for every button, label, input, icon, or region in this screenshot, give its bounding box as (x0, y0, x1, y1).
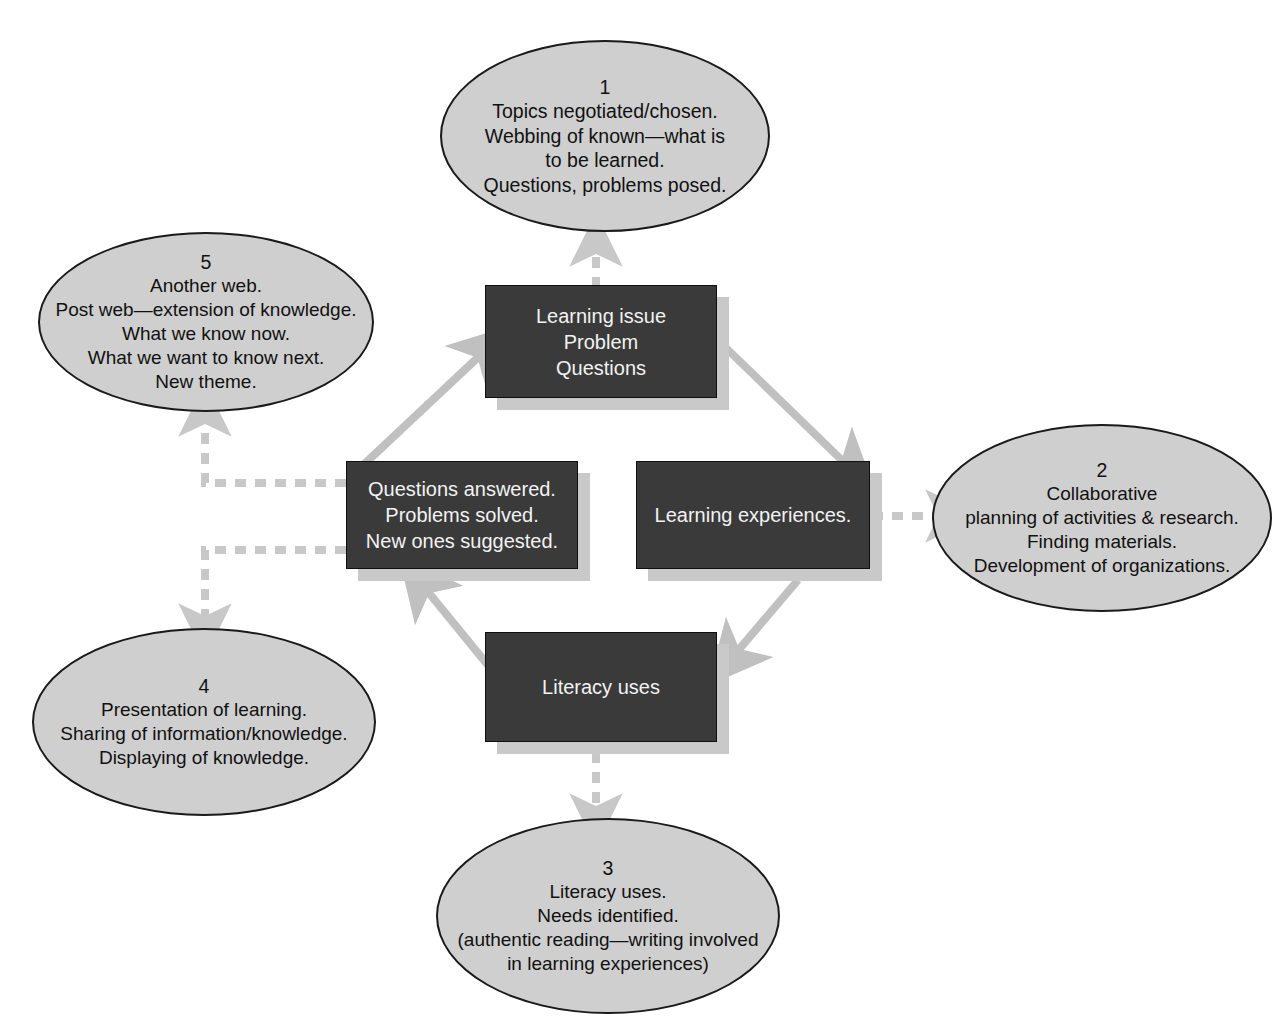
ellipse-2-line-3: Finding materials. (1027, 530, 1177, 554)
ellipse-4-line-2: Sharing of information/knowledge. (60, 722, 347, 746)
ellipse-4-line-3: Displaying of knowledge. (99, 746, 309, 770)
ellipse-3-line-4: in learning experiences) (507, 952, 709, 976)
ellipse-5-line-1: Another web. (150, 274, 262, 298)
box-top-line-1: Learning issue (536, 303, 666, 329)
diagram-canvas: 1 Topics negotiated/chosen. Webbing of k… (0, 0, 1278, 1028)
box-top-line-3: Questions (556, 355, 646, 381)
ellipse-5-number: 5 (201, 250, 212, 275)
ellipse-4-number: 4 (199, 674, 210, 699)
box-bottom[interactable]: Literacy uses (485, 632, 717, 742)
box-top[interactable]: Learning issue Problem Questions (485, 285, 717, 398)
ellipse-1-line-2: Webbing of known—what is (485, 124, 725, 149)
ellipse-3-line-3: (authentic reading—writing involved (458, 928, 759, 952)
ellipse-1-line-1: Topics negotiated/chosen. (492, 99, 718, 124)
ellipse-1[interactable]: 1 Topics negotiated/chosen. Webbing of k… (440, 40, 770, 232)
ellipse-3-line-2: Needs identified. (537, 904, 679, 928)
ellipse-1-line-3: to be learned. (545, 148, 664, 173)
dashed-arrow-left-to-ellipse5 (205, 412, 346, 483)
cycle-arrow-right-to-bottom (730, 580, 798, 660)
ellipse-4-line-1: Presentation of learning. (101, 698, 307, 722)
ellipse-4[interactable]: 4 Presentation of learning. Sharing of i… (32, 628, 376, 816)
ellipse-1-number: 1 (600, 75, 611, 100)
ellipse-2-number: 2 (1097, 458, 1108, 483)
box-bottom-line-1: Literacy uses (542, 674, 660, 700)
box-left-line-3: New ones suggested. (366, 528, 558, 554)
box-right-line-1: Learning experiences. (655, 502, 852, 528)
ellipse-2-line-2: planning of activities & research. (965, 506, 1239, 530)
box-left[interactable]: Questions answered. Problems solved. New… (346, 461, 578, 569)
dashed-arrow-left-to-ellipse4 (205, 550, 346, 628)
ellipse-2-line-1: Collaborative (1047, 482, 1158, 506)
ellipse-3[interactable]: 3 Literacy uses. Needs identified. (auth… (436, 818, 780, 1014)
ellipse-2-line-4: Development of organizations. (974, 554, 1231, 578)
box-top-line-2: Problem (564, 329, 638, 355)
ellipse-5[interactable]: 5 Another web. Post web—extension of kno… (38, 232, 374, 412)
cycle-arrow-top-to-right (726, 348, 852, 470)
ellipse-5-line-2: Post web—extension of knowledge. (55, 298, 356, 322)
cycle-arrow-left-to-top (358, 348, 488, 470)
ellipse-2[interactable]: 2 Collaborative planning of activities &… (932, 424, 1272, 612)
ellipse-5-line-3: What we know now. (122, 322, 290, 346)
ellipse-5-line-5: New theme. (155, 370, 256, 394)
box-left-line-2: Problems solved. (385, 502, 538, 528)
box-left-line-1: Questions answered. (368, 476, 556, 502)
ellipse-5-line-4: What we want to know next. (88, 346, 325, 370)
ellipse-3-line-1: Literacy uses. (549, 880, 666, 904)
ellipse-1-line-4: Questions, problems posed. (484, 173, 727, 198)
box-right[interactable]: Learning experiences. (636, 461, 870, 569)
ellipse-3-number: 3 (603, 856, 614, 881)
